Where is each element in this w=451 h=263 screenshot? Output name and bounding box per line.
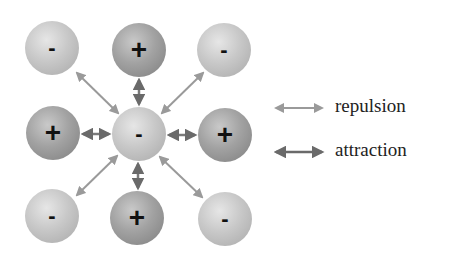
ion-top-center-cation: + <box>112 23 166 77</box>
legend-repulsion-label: repulsion <box>335 95 406 117</box>
minus-sign: - <box>112 107 166 161</box>
ion-bottom-right-anion: - <box>198 192 252 246</box>
plus-sign: + <box>26 106 80 160</box>
ion-middle-right-cation: + <box>198 108 252 162</box>
plus-sign: + <box>110 191 164 245</box>
minus-sign: - <box>25 189 79 243</box>
plus-sign: + <box>198 108 252 162</box>
legend-attraction: attraction <box>327 139 407 161</box>
ion-bottom-center-cation: + <box>110 191 164 245</box>
ion-top-left-anion: - <box>25 21 79 75</box>
ion-top-right-anion: - <box>197 23 251 77</box>
minus-sign: - <box>25 21 79 75</box>
ion-center-anion: - <box>112 107 166 161</box>
minus-sign: - <box>198 192 252 246</box>
minus-sign: - <box>197 23 251 77</box>
ion-middle-left-cation: + <box>26 106 80 160</box>
plus-sign: + <box>112 23 166 77</box>
ion-bottom-left-anion: - <box>25 189 79 243</box>
legend-repulsion: repulsion <box>327 95 406 117</box>
legend-attraction-label: attraction <box>335 139 407 161</box>
